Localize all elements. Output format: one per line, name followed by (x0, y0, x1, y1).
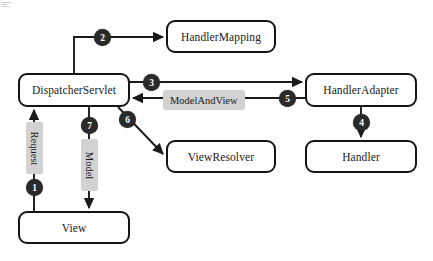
step-badge-3: 3 (143, 74, 160, 91)
step-badge-1: 1 (26, 179, 43, 196)
node-handler-mapping[interactable]: HandlerMapping (166, 20, 276, 53)
edge-label-text: Request (29, 131, 40, 165)
edge-dispatcher-to-handlermapping (74, 37, 163, 73)
step-badge-5: 5 (279, 90, 296, 107)
edge-label-text: ModelAndView (170, 95, 238, 106)
node-label: Handler (342, 151, 380, 163)
edge-label-request: Request (26, 122, 43, 174)
edge-label-text: Model (84, 151, 95, 178)
node-label: HandlerAdapter (323, 84, 398, 96)
step-badge-2: 2 (94, 29, 111, 46)
scan-artifact-mark (2, 2, 11, 9)
step-number: 2 (100, 33, 105, 43)
node-view[interactable]: View (18, 211, 130, 244)
step-number: 3 (149, 78, 154, 88)
edge-label-model-and-view: ModelAndView (163, 90, 245, 110)
node-handler[interactable]: Handler (305, 140, 417, 173)
node-label: HandlerMapping (181, 31, 261, 43)
step-number: 7 (87, 121, 92, 131)
node-handler-adapter[interactable]: HandlerAdapter (305, 73, 417, 107)
diagram-canvas: DispatcherServlet HandlerMapping Handler… (0, 0, 433, 261)
node-label: ViewResolver (188, 151, 254, 163)
node-dispatcher-servlet[interactable]: DispatcherServlet (18, 73, 130, 107)
step-badge-6: 6 (119, 111, 136, 128)
node-view-resolver[interactable]: ViewResolver (166, 140, 276, 173)
node-label: DispatcherServlet (32, 84, 116, 96)
step-number: 5 (285, 94, 290, 104)
edge-label-model: Model (81, 139, 98, 191)
step-badge-7: 7 (81, 117, 98, 134)
step-number: 4 (359, 118, 364, 128)
step-number: 1 (32, 183, 37, 193)
step-number: 6 (125, 115, 130, 125)
node-label: View (62, 222, 87, 234)
step-badge-4: 4 (353, 114, 370, 131)
